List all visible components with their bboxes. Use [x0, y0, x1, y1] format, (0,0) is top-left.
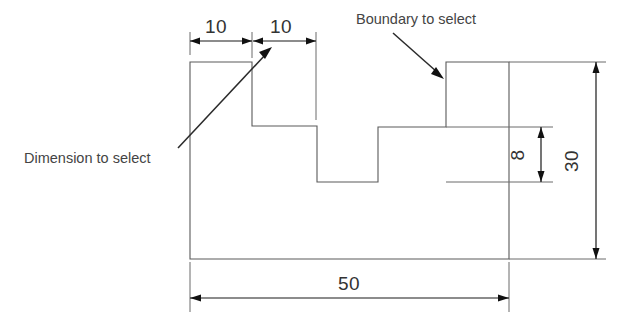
dim-10-left-arrow-end [242, 38, 252, 45]
dim-50-label: 50 [338, 273, 360, 294]
dimension-callout-arrowhead [259, 47, 272, 59]
dim-30-label: 30 [561, 150, 582, 172]
dimension-50[interactable]: 50 [190, 273, 509, 302]
dim-30-arrow-bottom [593, 248, 600, 259]
dimension-callout-label: Dimension to select [24, 150, 151, 166]
technical-drawing-canvas: 10 10 8 30 50 [0, 0, 620, 322]
dim-30-arrow-top [593, 62, 600, 73]
dim-50-arrow-end [498, 295, 509, 302]
dimension-10-left[interactable]: 10 [190, 16, 252, 45]
boundary-callout-leader-line [393, 33, 437, 72]
annotation-dimension-to-select[interactable]: Dimension to select [24, 47, 272, 166]
dimension-10-right[interactable]: 10 [253, 16, 316, 45]
dim-10-left-arrow-start [190, 38, 200, 45]
boundary-callout-label: Boundary to select [356, 11, 476, 27]
dim-8-label: 8 [507, 149, 528, 160]
dim-10-right-arrow-start [253, 38, 263, 45]
dim-50-arrow-start [190, 295, 201, 302]
dimension-callout-leader-line [178, 54, 266, 148]
dim-10-right-arrow-end [306, 38, 316, 45]
dim-10-left-label: 10 [205, 16, 227, 37]
drawing-svg: 10 10 8 30 50 [0, 0, 620, 322]
annotation-boundary-to-select[interactable]: Boundary to select [356, 11, 476, 79]
dimension-30[interactable]: 30 [561, 62, 600, 259]
dim-8-arrow-top [538, 127, 545, 138]
part-profile-outline [190, 62, 509, 259]
dim-8-arrow-bottom [538, 171, 545, 182]
dimension-8[interactable]: 8 [507, 127, 545, 182]
dim-10-right-label: 10 [270, 16, 292, 37]
